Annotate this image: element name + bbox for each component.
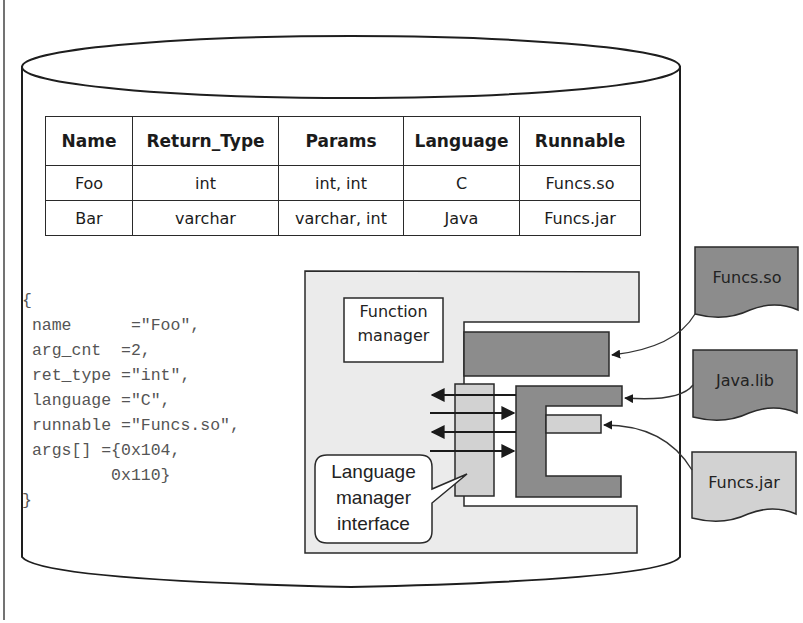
- c-library-slot: [464, 332, 609, 376]
- file-label-funcs-so: Funcs.so: [695, 268, 799, 287]
- column-header-runnable: Runnable: [520, 117, 641, 166]
- cell-params: varchar, int: [279, 201, 404, 236]
- cell-params: int, int: [279, 166, 404, 201]
- cell-language: Java: [404, 201, 520, 236]
- file-label-funcs-jar: Funcs.jar: [692, 473, 796, 492]
- cell-name: Bar: [46, 201, 133, 236]
- language-manager-interface-label: Language manager interface: [315, 459, 432, 537]
- cell-return-type: varchar: [133, 201, 279, 236]
- column-header-return-type: Return_Type: [133, 117, 279, 166]
- cell-return-type: int: [133, 166, 279, 201]
- table-row: Foo int int, int C Funcs.so: [46, 166, 641, 201]
- table-header-row: Name Return_Type Params Language Runnabl…: [46, 117, 641, 166]
- function-manager-label: Function manager: [344, 300, 443, 348]
- cell-name: Foo: [46, 166, 133, 201]
- cylinder-top: [22, 36, 680, 98]
- cell-language: C: [404, 166, 520, 201]
- column-header-params: Params: [279, 117, 404, 166]
- cell-runnable: Funcs.jar: [520, 201, 641, 236]
- cell-runnable: Funcs.so: [520, 166, 641, 201]
- file-label-java-lib: Java.lib: [693, 371, 797, 390]
- table-row: Bar varchar varchar, int Java Funcs.jar: [46, 201, 641, 236]
- jar-slot: [546, 415, 601, 433]
- function-catalog-table: Name Return_Type Params Language Runnabl…: [45, 116, 641, 236]
- column-header-name: Name: [46, 117, 133, 166]
- function-struct-code: { name ="Foo", arg_cnt =2, ret_type ="in…: [22, 288, 240, 513]
- column-header-language: Language: [404, 117, 520, 166]
